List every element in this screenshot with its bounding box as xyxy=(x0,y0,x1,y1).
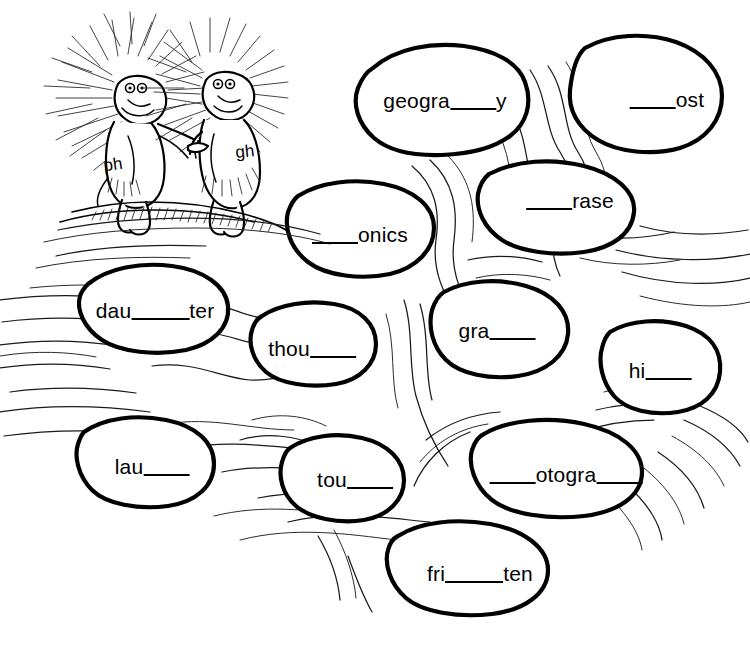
stone-shape-laugh xyxy=(77,417,214,507)
stone-shape-tough xyxy=(281,435,404,521)
worksheet-page: .stone-outline { fill:#ffffff; stroke:#0… xyxy=(0,0,750,648)
porcupine-illustration-group xyxy=(36,12,330,268)
stone-shape-geography xyxy=(356,45,529,155)
stone-shape-phrase xyxy=(478,161,634,253)
stone-shape-phonics xyxy=(287,181,434,276)
worksheet-illustration: .stone-outline { fill:#ffffff; stroke:#0… xyxy=(0,0,750,648)
stone-shape-high xyxy=(601,321,721,413)
stones-group xyxy=(77,36,722,615)
stone-shape-frighten xyxy=(387,521,548,615)
stone-shape-photograph xyxy=(471,420,642,517)
stone-shape-daughter xyxy=(79,265,228,353)
stone-shape-ghost xyxy=(570,36,722,152)
stone-shape-graph xyxy=(431,281,569,377)
stone-shape-though xyxy=(251,303,376,386)
